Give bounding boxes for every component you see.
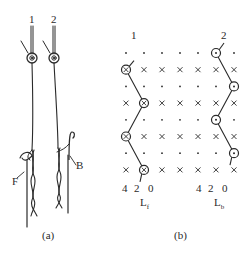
grid-cross xyxy=(142,67,147,72)
grid-dot xyxy=(179,152,181,154)
circled-x-icon xyxy=(140,165,149,174)
grid-cross xyxy=(124,167,129,172)
grid-dot xyxy=(161,86,163,88)
grid-cross xyxy=(160,67,165,72)
grid-dot xyxy=(233,52,235,54)
grid-dot xyxy=(215,86,217,88)
grid-dot xyxy=(125,152,127,154)
circled-dot-icon xyxy=(212,115,221,124)
grid-cross xyxy=(214,67,219,72)
grid-cross xyxy=(232,167,237,172)
grid-cross xyxy=(232,67,237,72)
circled-x-icon xyxy=(140,99,149,108)
back-bar-lapping-line xyxy=(216,53,234,153)
grid-dot xyxy=(143,86,145,88)
panel-a-caption: (a) xyxy=(42,230,54,241)
circled-dot-icon xyxy=(212,49,221,58)
back-bar-label: B xyxy=(76,160,83,171)
grid-dot xyxy=(197,119,199,121)
grid-cross xyxy=(196,67,201,72)
back-scale-4: 4 xyxy=(196,183,202,194)
grid-cross xyxy=(232,101,237,106)
grid-dot xyxy=(161,52,163,54)
grid-cross xyxy=(196,101,201,106)
grid-dot xyxy=(233,119,235,121)
front-lap-label: Lf xyxy=(140,197,149,210)
grid-dot xyxy=(125,86,127,88)
needle-2-label: 2 xyxy=(51,14,57,25)
grid-cross xyxy=(214,167,219,172)
grid-dot xyxy=(179,52,181,54)
lapping-notation-grid xyxy=(0,0,248,257)
back-lap-label: Lb xyxy=(214,197,224,210)
grid-cross xyxy=(196,167,201,172)
grid-dot xyxy=(143,119,145,121)
grid-dot xyxy=(161,119,163,121)
front-scale-2: 2 xyxy=(134,183,140,194)
grid-dot xyxy=(125,119,127,121)
bar-1-label: 1 xyxy=(131,30,137,41)
grid-dot xyxy=(197,52,199,54)
grid-cross xyxy=(214,134,219,139)
circled-x-icon xyxy=(122,65,131,74)
front-bar-lead-in xyxy=(129,61,134,67)
grid-cross xyxy=(214,101,219,106)
grid-cross xyxy=(178,101,183,106)
grid-cross xyxy=(196,134,201,139)
grid-dot xyxy=(143,152,145,154)
grid-cross xyxy=(232,134,237,139)
panel-b-caption: (b) xyxy=(174,230,187,241)
grid-cross xyxy=(124,101,129,106)
grid-cross xyxy=(142,134,147,139)
bar-2-label: 2 xyxy=(221,30,227,41)
grid-cross xyxy=(178,67,183,72)
grid-dot xyxy=(143,52,145,54)
back-bar-lead-in xyxy=(219,43,224,50)
grid-cross xyxy=(160,101,165,106)
circled-x-icon xyxy=(122,132,131,141)
front-scale-4: 4 xyxy=(122,183,128,194)
front-bar-label: F xyxy=(12,176,18,187)
grid-cross xyxy=(178,134,183,139)
grid-dot xyxy=(125,52,127,54)
grid-dot xyxy=(215,152,217,154)
circled-dot-icon xyxy=(230,149,239,158)
grid-dot xyxy=(197,86,199,88)
grid-dot xyxy=(179,86,181,88)
circled-dot-icon xyxy=(230,82,239,91)
back-scale-2: 2 xyxy=(208,183,214,194)
needle-1-label: 1 xyxy=(29,14,35,25)
grid-cross xyxy=(178,167,183,172)
grid-cross xyxy=(160,167,165,172)
front-bar-lapping-line xyxy=(126,70,144,170)
grid-dot xyxy=(161,152,163,154)
back-scale-0: 0 xyxy=(222,183,228,194)
grid-dot xyxy=(179,119,181,121)
front-scale-0: 0 xyxy=(148,183,154,194)
grid-dot xyxy=(197,152,199,154)
grid-cross xyxy=(160,134,165,139)
